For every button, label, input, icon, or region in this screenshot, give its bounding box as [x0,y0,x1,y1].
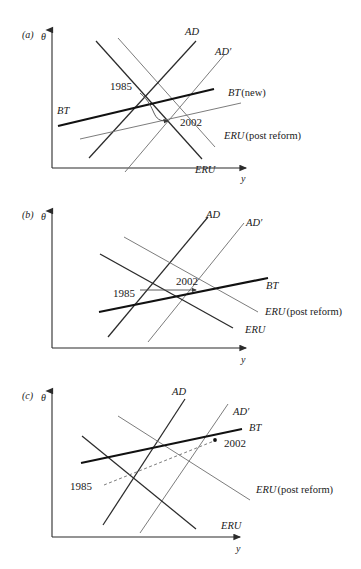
label-eru-post-roman-b: (post reform) [286,306,342,318]
label-year-1985-b: 1985 [113,287,136,299]
label-eru-post-reform-b: ERU(post reform) [264,306,343,318]
curve-ad-prime-c [140,404,228,533]
economics-figure: (a) θ y AD AD′ BT ERU BT(new) ERU(post r… [0,0,361,569]
x-axis-label-c: y [235,543,241,554]
label-year-2002-c: 2002 [224,437,246,449]
label-bt-b: BT [266,280,279,291]
label-eru-post-italic-a: ERU [223,130,246,141]
point-2002-marker-c [213,438,217,442]
label-bt-a: BT [57,105,70,116]
label-ad-prime-b: AD′ [245,217,263,228]
x-axis-label-a: y [240,173,246,184]
label-bt-c: BT [249,422,262,433]
label-ad-prime-a: AD′ [214,46,232,57]
label-eru-b: ERU [244,324,267,335]
label-year-2002-b: 2002 [176,275,198,287]
y-axis-label-c: θ [41,392,46,403]
panel-letter-a: (a) [22,29,34,41]
panel-c-chart: (c) θ y AD AD′ BT ERU ERU(post reform) 1… [0,377,361,569]
y-axis-label-a: θ [41,31,46,42]
label-eru-post-roman-a: (post reform) [245,130,301,142]
panel-a: (a) θ y AD AD′ BT ERU BT(new) ERU(post r… [0,0,361,190]
label-eru-a: ERU [194,164,217,175]
label-year-2002-a: 2002 [180,116,202,128]
panel-b: (b) θ y AD AD′ BT ERU ERU(post reform) 1… [0,185,361,377]
label-bt-new-a: BT(new) [228,87,266,99]
label-bt-new-roman-a: (new) [241,87,266,99]
label-eru-c: ERU [220,520,243,531]
curve-bt-new-a [80,103,241,139]
curve-eru-post-reform-c [118,416,250,500]
x-axis-label-b: y [240,354,246,365]
label-eru-post-italic-b: ERU [264,306,287,317]
label-ad-a: AD [184,26,199,37]
curve-ad-c [103,399,185,525]
label-ad-b: AD [205,209,220,220]
label-ad-prime-c: AD′ [232,406,250,417]
label-eru-post-reform-a: ERU(post reform) [223,130,302,142]
panel-letter-c: (c) [22,390,34,402]
y-axis-label-b: θ [41,211,46,222]
label-ad-c: AD [171,386,186,397]
panel-a-chart: (a) θ y AD AD′ BT ERU BT(new) ERU(post r… [0,0,361,190]
panel-b-chart: (b) θ y AD AD′ BT ERU ERU(post reform) 1… [0,185,361,377]
label-year-1985-c: 1985 [70,480,93,492]
label-bt-new-italic-a: BT [228,87,241,98]
label-eru-post-reform-c: ERU(post reform) [255,484,334,496]
curve-ad-prime-a [125,54,225,172]
label-eru-post-roman-c: (post reform) [277,484,333,496]
panel-letter-b: (b) [22,209,34,221]
curve-ad-a [89,41,196,158]
label-eru-post-italic-c: ERU [255,484,278,495]
panel-c: (c) θ y AD AD′ BT ERU ERU(post reform) 1… [0,377,361,569]
label-year-1985-a: 1985 [110,80,133,92]
